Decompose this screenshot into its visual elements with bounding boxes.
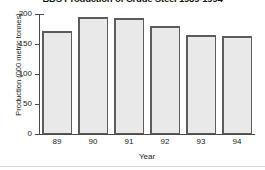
- scan-edge-artifact: [0, 166, 265, 167]
- x-axis-label: Year: [39, 152, 255, 161]
- bar: [150, 26, 180, 134]
- y-axis-label: Production (000 metric tonnes): [14, 0, 23, 135]
- x-tick-label: 90: [75, 137, 111, 147]
- x-tick-label: 94: [219, 137, 255, 147]
- chart-title: BDS Production of Crude Steel 1989-1994: [0, 0, 265, 4]
- y-tick-label: 150: [19, 39, 32, 48]
- bar: [42, 31, 72, 134]
- y-tick-label: 200: [19, 9, 32, 18]
- y-tick-label: 100: [19, 69, 32, 78]
- y-tick-label: 50: [23, 99, 32, 108]
- y-tick-label: 0: [28, 129, 32, 138]
- x-tick-label: 91: [111, 137, 147, 147]
- x-tick-label: 89: [39, 137, 75, 147]
- bar-chart: BDS Production of Crude Steel 1989-1994 …: [0, 0, 265, 170]
- x-tick-label: 92: [147, 137, 183, 147]
- plot-area: 050100150200: [39, 14, 255, 134]
- bar: [222, 36, 252, 134]
- bar: [186, 35, 216, 134]
- bar: [78, 17, 108, 134]
- bar-series: [39, 14, 255, 134]
- x-axis-line: [39, 134, 255, 135]
- x-tick-label: 93: [183, 137, 219, 147]
- bar: [114, 18, 144, 134]
- x-axis-ticks: 899091929394: [39, 137, 255, 149]
- y-tick: 0: [35, 134, 40, 135]
